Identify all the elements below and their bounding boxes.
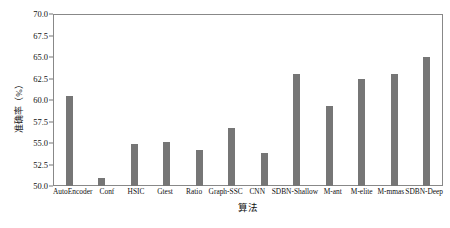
y-axis-tick-mark [49, 35, 53, 36]
bar [423, 57, 430, 186]
y-axis-tick-label: 52.5 [0, 160, 53, 170]
y-axis-tick-label: 70.0 [0, 9, 53, 19]
x-axis-tick-labels: AutoEncoderConfHSICGtestRatioGraph-SSCCN… [53, 187, 443, 196]
bar [131, 144, 138, 186]
y-axis-tick-mark [49, 164, 53, 165]
bar [261, 153, 268, 186]
y-axis-tick-mark [49, 186, 53, 187]
bar [228, 128, 235, 186]
x-axis-tick-label: CNN [243, 187, 272, 196]
y-axis-tick-mark [49, 121, 53, 122]
bar-chart: 准确率（%） AutoEncoderConfHSICGtestRatioGrap… [0, 0, 450, 228]
x-axis-title: 算法 [53, 200, 443, 214]
x-axis-tick-label: M-elite [347, 187, 376, 196]
bar-slot [378, 14, 411, 186]
bar-slot [313, 14, 346, 186]
x-axis-tick-label: AutoEncoder [53, 187, 92, 196]
bar-series [53, 14, 443, 186]
y-axis-tick-label: 62.5 [0, 74, 53, 84]
bar-slot [151, 14, 184, 186]
y-axis-tick-mark [49, 57, 53, 58]
y-axis-tick-label: 60.0 [0, 95, 53, 105]
bar-slot [183, 14, 216, 186]
y-axis-tick-mark [49, 100, 53, 101]
y-axis-title: 准确率（%） [12, 47, 25, 167]
bar [326, 106, 333, 186]
bar [391, 74, 398, 186]
y-axis-tick-label: 55.0 [0, 138, 53, 148]
y-axis-tick-label: 67.5 [0, 31, 53, 41]
bar-slot [411, 14, 444, 186]
x-axis-tick-label: SDBN-Shallow [272, 187, 318, 196]
bar-slot [248, 14, 281, 186]
x-axis-tick-label: HSIC [121, 187, 150, 196]
bar [163, 142, 170, 186]
x-axis-tick-label: Graph-SSC [209, 187, 243, 196]
y-axis-tick-label: 57.5 [0, 117, 53, 127]
bar-slot [216, 14, 249, 186]
bar [358, 79, 365, 187]
y-axis-tick-label: 65.0 [0, 52, 53, 62]
bar-slot [281, 14, 314, 186]
y-axis-tick-mark [49, 14, 53, 15]
bar [66, 96, 73, 186]
bar-slot [53, 14, 86, 186]
y-axis-tick-label: 50.0 [0, 181, 53, 191]
bar-slot [118, 14, 151, 186]
x-axis-tick-label: Ratio [180, 187, 209, 196]
x-axis-tick-label: M-mmas [376, 187, 405, 196]
y-axis-tick-mark [49, 78, 53, 79]
bar [98, 178, 105, 186]
bar-slot [346, 14, 379, 186]
y-axis-tick-mark [49, 143, 53, 144]
bar-slot [86, 14, 119, 186]
x-axis-tick-label: SDBN-Deep [405, 187, 443, 196]
x-axis-tick-label: M-ant [318, 187, 347, 196]
bar [196, 150, 203, 186]
x-axis-tick-label: Gtest [151, 187, 180, 196]
bar [293, 74, 300, 186]
x-axis-tick-label: Conf [92, 187, 121, 196]
